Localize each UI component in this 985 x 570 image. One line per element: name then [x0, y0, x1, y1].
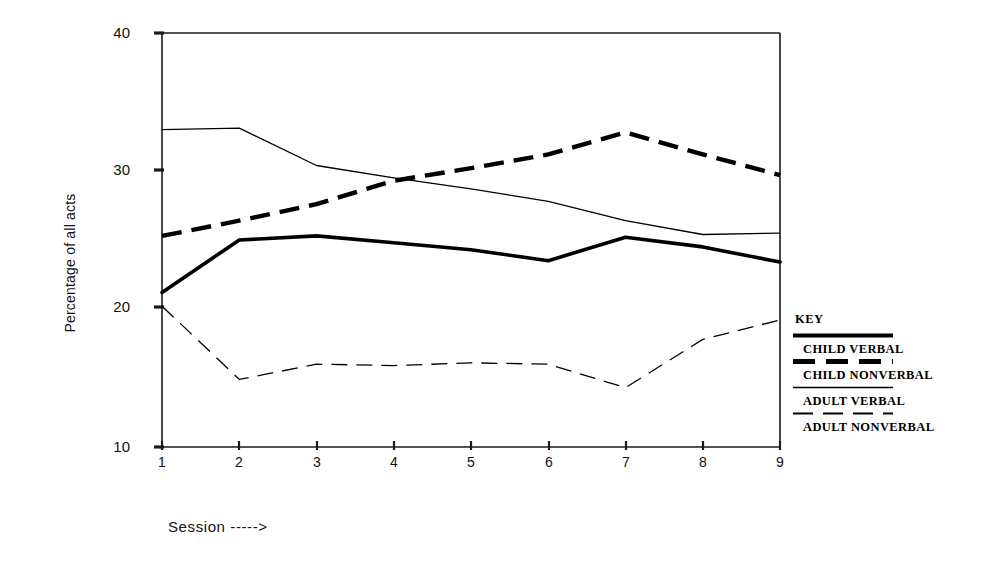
x-tick-label-1: 1: [147, 455, 177, 469]
x-tick-marks: [162, 441, 780, 450]
x-tick-label-2: 2: [224, 455, 254, 469]
line-chart-plot: [0, 0, 985, 570]
legend-label-adult-nonverbal: ADULT NONVERBAL: [803, 420, 934, 434]
x-tick-label-7: 7: [611, 455, 641, 469]
x-tick-label-6: 6: [534, 455, 564, 469]
x-tick-label-4: 4: [379, 455, 409, 469]
x-tick-label-3: 3: [302, 455, 332, 469]
legend-title: KEY: [795, 312, 983, 327]
y-tick-label-20: 20: [96, 299, 130, 314]
legend-item-adult-verbal: ADULT VERBAL: [793, 384, 983, 409]
legend-swatch-thick-solid-icon: [793, 332, 983, 339]
series-line-child-nonverbal: [162, 132, 780, 236]
chart-legend: KEY CHILD VERBAL CHILD NONVERBAL: [793, 312, 983, 436]
legend-label-child-nonverbal: CHILD NONVERBAL: [803, 368, 933, 382]
series-line-child-verbal: [162, 236, 780, 293]
y-tick-label-10: 10: [96, 439, 130, 454]
y-axis-tick-labels: 40 30 20 10: [96, 0, 130, 570]
chart-figure: 40 30 20 10 1 2 3 4 5 6 7 8 9 Percentage…: [0, 0, 985, 570]
legend-label-adult-verbal: ADULT VERBAL: [803, 394, 905, 408]
y-axis-title: Percentage of all acts: [62, 133, 78, 393]
x-tick-label-9: 9: [765, 455, 795, 469]
x-axis-tick-labels: 1 2 3 4 5 6 7 8 9: [0, 455, 985, 479]
legend-swatch-thin-solid-icon: [793, 384, 983, 391]
legend-item-child-nonverbal: CHILD NONVERBAL: [793, 358, 983, 383]
y-tick-label-40: 40: [96, 25, 130, 40]
x-axis-title: Session ----->: [168, 518, 268, 535]
legend-item-child-verbal: CHILD VERBAL: [793, 332, 983, 357]
x-tick-label-8: 8: [688, 455, 718, 469]
y-tick-label-30: 30: [96, 162, 130, 177]
legend-swatch-thin-dashed-icon: [793, 410, 983, 417]
series-line-adult-nonverbal: [162, 306, 780, 388]
legend-label-child-verbal: CHILD VERBAL: [803, 342, 904, 356]
x-tick-label-5: 5: [456, 455, 486, 469]
legend-swatch-thick-dashed-icon: [793, 358, 983, 365]
legend-item-adult-nonverbal: ADULT NONVERBAL: [793, 410, 983, 435]
